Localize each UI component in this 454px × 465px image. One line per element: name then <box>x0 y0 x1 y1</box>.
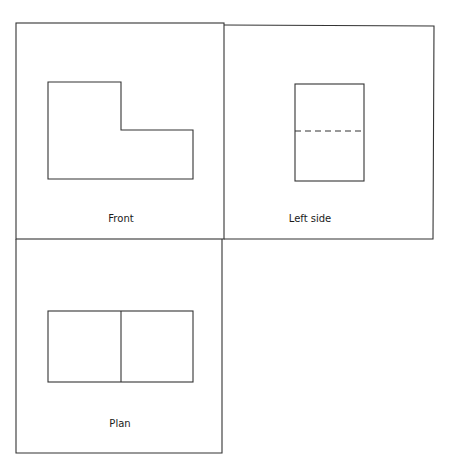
front-label: Front <box>108 213 133 224</box>
plan-label: Plan <box>109 418 130 429</box>
left-side-outline <box>295 84 364 181</box>
left-side-view <box>224 25 434 239</box>
orthographic-drawing: Front Left side Plan <box>0 0 454 465</box>
left-side-label: Left side <box>289 213 331 224</box>
front-view <box>16 23 224 239</box>
left-side-frame <box>224 25 434 239</box>
front-outline <box>48 82 193 179</box>
